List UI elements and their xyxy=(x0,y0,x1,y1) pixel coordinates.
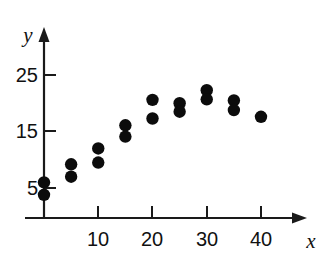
data-point xyxy=(146,112,158,124)
y-axis-ticks xyxy=(44,75,56,188)
data-point xyxy=(173,106,185,118)
y-tick-label-15: 15 xyxy=(16,120,38,142)
y-tick-label-5: 5 xyxy=(27,177,38,199)
x-axis-ticks xyxy=(98,206,261,218)
scatter-plot-figure: 25 15 5 10 20 30 40 y x xyxy=(0,0,325,263)
data-point xyxy=(38,176,50,188)
data-point xyxy=(201,93,213,105)
x-tick-label-40: 40 xyxy=(250,228,272,250)
y-axis-label: y xyxy=(21,23,33,47)
data-point xyxy=(65,158,77,170)
data-point xyxy=(92,156,104,168)
y-tick-label-25: 25 xyxy=(16,64,38,86)
data-point xyxy=(146,94,158,106)
data-point xyxy=(119,119,131,131)
data-point xyxy=(255,111,267,123)
x-tick-label-30: 30 xyxy=(196,228,218,250)
data-point xyxy=(38,189,50,201)
x-tick-label-20: 20 xyxy=(141,228,163,250)
data-point xyxy=(228,104,240,116)
x-tick-label-10: 10 xyxy=(87,228,109,250)
y-axis-arrow-icon xyxy=(39,27,50,42)
data-point xyxy=(65,171,77,183)
data-point xyxy=(119,130,131,142)
data-points-group xyxy=(38,84,267,201)
plot-canvas: 25 15 5 10 20 30 40 y x xyxy=(0,0,325,263)
x-axis-label: x xyxy=(305,229,316,253)
x-axis-arrow-icon xyxy=(292,213,307,224)
data-point xyxy=(92,142,104,154)
